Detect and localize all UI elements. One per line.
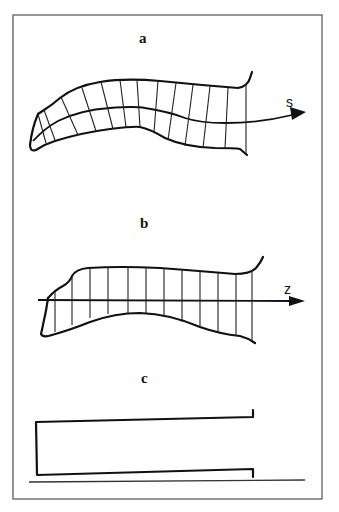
panel-c-baseline [29,480,305,482]
panel-b-upper-boundary [48,257,263,298]
panel-b-axis-label-z: z [284,281,291,297]
panel-b-label: b [140,215,148,231]
panel-a-label: a [139,30,147,46]
panel-b: b z [38,215,305,343]
panel-c-label: c [141,370,148,386]
panel-b-arrowhead [289,296,305,306]
panel-b-axis-z [38,300,292,301]
panel-b-grid-lines [55,267,252,341]
panel-a: a s [30,30,306,155]
panel-c-rectangular-channel [36,410,253,477]
panel-a-lower-boundary [30,114,247,155]
panel-c: c [29,370,305,482]
diagram-canvas: a s b [0,0,339,512]
panel-a-axis-label-s: s [286,94,293,110]
figure-frame [13,15,322,499]
panel-b-lower-boundary [41,298,255,343]
